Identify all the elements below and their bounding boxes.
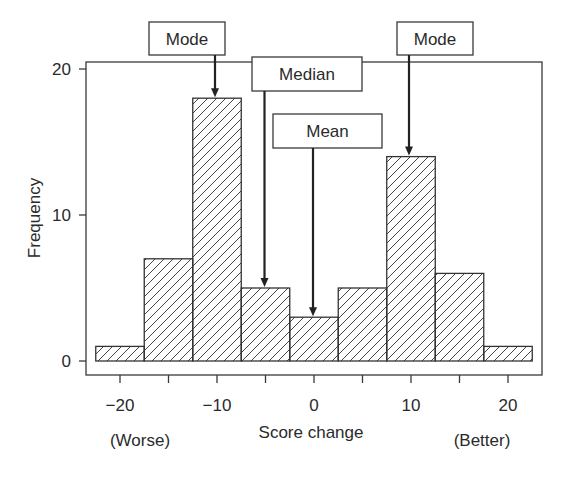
arrow-head-icon [261,278,269,287]
x-tick-label: −20 [106,396,135,415]
annotation-mode: Mode [149,22,225,97]
histogram-bar [290,317,339,361]
histogram-bar [387,157,436,361]
histogram-bar [484,346,533,361]
worse-label: (Worse) [110,431,170,450]
x-tick-label: 20 [499,396,518,415]
histogram-chart: −20−1001020 01020 ModeMedianMeanMode Fre… [0,0,561,477]
histogram-bar [435,273,484,361]
annotation-label: Mean [306,122,349,141]
histogram-bar [193,98,242,361]
x-tick-label: −10 [203,396,232,415]
better-label: (Better) [454,431,511,450]
y-tick-label: 0 [62,352,71,371]
histogram-bar [338,288,387,361]
histogram-bar [96,346,145,361]
y-tick-label: 20 [52,60,71,79]
annotation-mode: Mode [397,22,473,156]
annotation-mean: Mean [273,114,382,316]
y-axis-title: Frequency [25,177,44,258]
arrow-head-icon [405,147,413,156]
annotation-label: Mode [414,30,457,49]
x-axis-title: Score change [259,423,364,442]
y-tick-label: 10 [52,206,71,225]
y-axis: 01020 [52,60,86,371]
annotation-label: Mode [166,30,209,49]
histogram-bar [144,259,193,361]
x-axis: −20−1001020 [106,375,518,415]
arrow-head-icon [309,307,317,316]
x-tick-label: 10 [402,396,421,415]
annotation-label: Median [279,65,335,84]
x-tick-label: 0 [309,396,318,415]
annotation-median: Median [252,57,362,287]
histogram-bar [241,288,290,361]
arrow-head-icon [211,88,219,97]
